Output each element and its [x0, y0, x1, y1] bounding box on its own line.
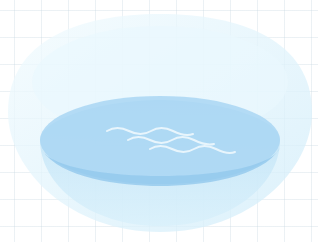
- illustration-canvas: [0, 0, 318, 242]
- bowl-icon: [0, 0, 318, 242]
